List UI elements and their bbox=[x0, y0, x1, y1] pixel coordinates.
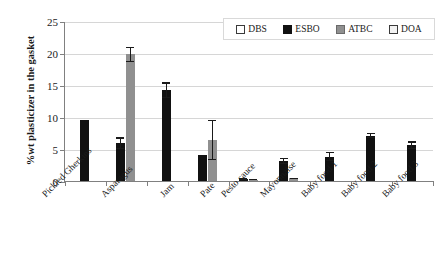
y-axis-tick-label: 0 bbox=[53, 176, 59, 188]
error-bar-cap bbox=[367, 133, 375, 134]
error-bar bbox=[120, 137, 121, 149]
y-axis-tick-label: 25 bbox=[47, 16, 58, 28]
x-axis-tick bbox=[310, 181, 311, 186]
error-bar bbox=[283, 158, 284, 164]
error-bar-cap bbox=[280, 163, 288, 164]
legend-item-esbo: ESBO bbox=[283, 24, 319, 34]
x-axis-tick bbox=[269, 181, 270, 186]
gridline bbox=[65, 86, 433, 87]
error-bar-cap bbox=[126, 61, 134, 62]
error-bar-cap bbox=[208, 159, 216, 160]
legend-swatch-doa-icon bbox=[389, 25, 398, 34]
error-bar-cap bbox=[126, 47, 134, 48]
x-axis-tick bbox=[433, 181, 434, 186]
error-bar-cap bbox=[116, 137, 124, 138]
error-bar-cap bbox=[326, 160, 334, 161]
bar-esbo-baby-food-2 bbox=[366, 136, 375, 181]
error-bar bbox=[242, 178, 243, 179]
error-bar bbox=[166, 82, 167, 97]
y-axis-tick-label: 5 bbox=[53, 144, 59, 156]
x-axis-tick bbox=[188, 181, 189, 186]
chart-legend: DBSESBOATBCDOA bbox=[223, 18, 435, 40]
error-bar bbox=[329, 152, 330, 161]
legend-item-dbs: DBS bbox=[236, 24, 266, 34]
y-axis-tick bbox=[60, 22, 65, 23]
legend-label: DOA bbox=[401, 24, 422, 34]
bar-chart-figure: %wt plasticizer in the gasket 0510152025… bbox=[0, 0, 445, 262]
error-bar bbox=[252, 179, 253, 180]
y-axis-tick-label: 10 bbox=[47, 112, 58, 124]
error-bar-cap bbox=[290, 178, 298, 179]
error-bar-cap bbox=[208, 120, 216, 121]
legend-item-atbc: ATBC bbox=[336, 24, 372, 34]
error-bar-cap bbox=[408, 141, 416, 142]
error-bar-cap bbox=[408, 148, 416, 149]
x-axis-tick bbox=[147, 181, 148, 186]
error-bar bbox=[370, 133, 371, 138]
x-axis-label: Jam bbox=[158, 181, 176, 199]
x-axis-label: Pate bbox=[198, 180, 217, 199]
error-bar-cap bbox=[162, 82, 170, 83]
legend-label: ESBO bbox=[295, 24, 319, 34]
gridline bbox=[65, 54, 433, 55]
error-bar-cap bbox=[116, 148, 124, 149]
y-axis-title: %wt plasticizer in the gasket bbox=[25, 16, 36, 186]
legend-label: ATBC bbox=[348, 24, 372, 34]
legend-swatch-esbo-icon bbox=[283, 25, 292, 34]
error-bar-cap bbox=[249, 179, 257, 180]
bar-esbo-baby-food-3 bbox=[407, 145, 416, 181]
y-axis-tick bbox=[60, 54, 65, 55]
error-bar-cap bbox=[280, 158, 288, 159]
gridline bbox=[65, 118, 433, 119]
plot-area: 0510152025 bbox=[64, 22, 433, 182]
y-axis-tick bbox=[60, 150, 65, 151]
legend-item-doa: DOA bbox=[389, 24, 422, 34]
bar-esbo-pate bbox=[198, 155, 207, 181]
legend-label: DBS bbox=[248, 24, 266, 34]
x-axis-tick bbox=[65, 181, 66, 186]
bar-esbo-jam bbox=[162, 90, 171, 181]
y-axis-tick bbox=[60, 118, 65, 119]
error-bar-cap bbox=[239, 179, 247, 180]
error-bar-cap bbox=[367, 137, 375, 138]
error-bar-cap bbox=[162, 97, 170, 98]
error-bar bbox=[411, 141, 412, 149]
error-bar bbox=[212, 120, 213, 160]
x-axis-tick bbox=[392, 181, 393, 186]
bar-atbc-asparagus bbox=[126, 54, 135, 181]
x-axis-tick bbox=[229, 181, 230, 186]
error-bar-cap bbox=[326, 152, 334, 153]
x-axis-tick bbox=[351, 181, 352, 186]
bar-esbo-pickled-gherkins bbox=[80, 120, 89, 181]
legend-swatch-atbc-icon bbox=[336, 25, 345, 34]
legend-swatch-dbs-icon bbox=[236, 25, 245, 34]
y-axis-tick-label: 15 bbox=[47, 80, 58, 92]
error-bar bbox=[293, 178, 294, 179]
error-bar bbox=[130, 47, 131, 62]
y-axis-tick bbox=[60, 86, 65, 87]
y-axis-tick-label: 20 bbox=[47, 48, 58, 60]
x-axis-tick bbox=[106, 181, 107, 186]
